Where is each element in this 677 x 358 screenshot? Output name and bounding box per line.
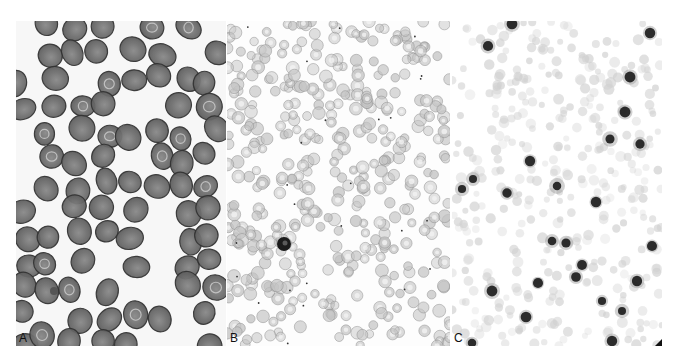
- panel-b-micrograph: B: [227, 21, 450, 346]
- panel-c-micrograph: C: [452, 21, 662, 346]
- panel-c-label: C: [454, 332, 463, 344]
- panel-a-micrograph: A: [16, 21, 226, 346]
- panel-a-label: A: [19, 332, 27, 344]
- panel-c-cells: [452, 21, 662, 346]
- panel-b-label: B: [230, 332, 238, 344]
- panel-a-cells: [16, 21, 226, 346]
- micrograph-figure: A B C: [0, 0, 677, 358]
- panel-b-cells: [227, 21, 450, 346]
